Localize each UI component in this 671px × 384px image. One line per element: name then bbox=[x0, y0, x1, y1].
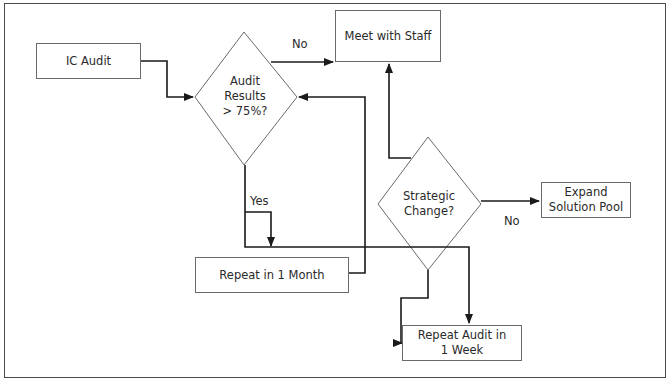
audit-results-label: Audit Results > 75%? bbox=[205, 74, 285, 119]
expand-solution-pool-node: Expand Solution Pool bbox=[541, 182, 631, 218]
meet-staff-label: Meet with Staff bbox=[344, 29, 431, 44]
repeat-month-node: Repeat in 1 Month bbox=[195, 257, 349, 293]
edge-label-no-top: No bbox=[292, 37, 308, 51]
repeat-month-label: Repeat in 1 Month bbox=[219, 268, 324, 283]
ic-audit-node: IC Audit bbox=[36, 43, 141, 79]
strategic-change-label: Strategic Change? bbox=[389, 189, 469, 219]
repeat-week-node: Repeat Audit in 1 Week bbox=[402, 325, 522, 361]
edge-icaudit-to-audit-results bbox=[141, 61, 193, 97]
edge-yes-to-repeat-month bbox=[245, 212, 271, 246]
edge-strategic-to-meet-staff bbox=[389, 64, 411, 158]
meet-staff-node: Meet with Staff bbox=[335, 10, 441, 62]
edge-label-no-right: No bbox=[504, 214, 520, 228]
edge-label-yes: Yes bbox=[250, 194, 269, 208]
ic-audit-label: IC Audit bbox=[66, 54, 111, 69]
